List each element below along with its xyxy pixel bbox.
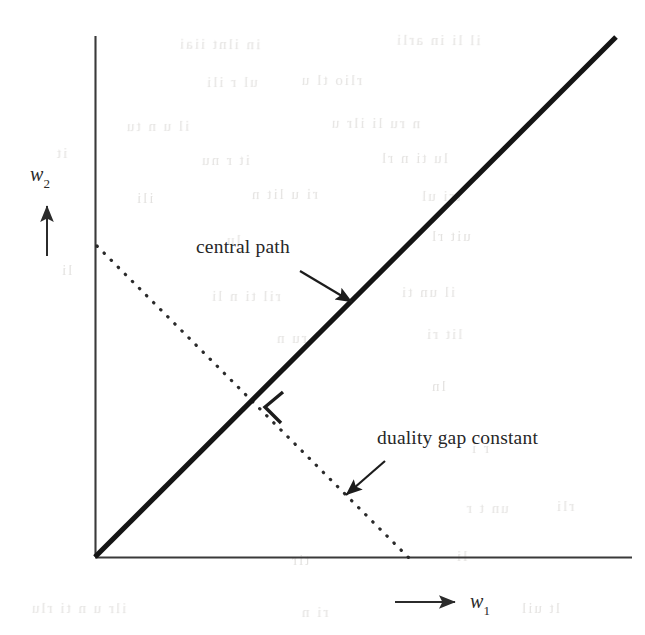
x-axis-label: w1 [470, 590, 490, 617]
x-axis-label-symbol: w [470, 590, 484, 612]
figure-vector-layer [0, 0, 645, 635]
y-axis-label-symbol: w [30, 163, 44, 185]
central-path-leader-arrow [300, 271, 352, 302]
central-path-line [95, 37, 616, 557]
y-axis-label: w2 [30, 163, 50, 190]
x-axis-label-subscript: 1 [484, 603, 491, 618]
duality-gap-leader-arrow [346, 461, 385, 495]
y-axis-label-subscript: 2 [44, 176, 51, 191]
central-path-annotation-label: central path [196, 236, 290, 258]
right-angle-marker-icon [265, 392, 283, 423]
duality-gap-annotation-label: duality gap constant [377, 427, 538, 449]
figure-canvas: in ilnt iiaiil li in arliul r ilirlio tl… [0, 0, 645, 635]
